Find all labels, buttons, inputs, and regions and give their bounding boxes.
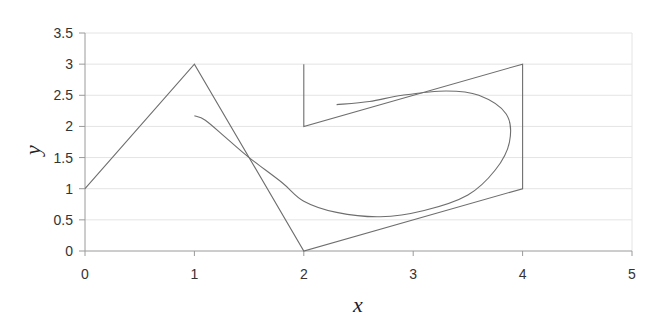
y-tick-label: 2.5 (54, 87, 74, 103)
x-tick-label: 0 (81, 266, 89, 282)
y-tick-label: 0.5 (54, 212, 74, 228)
x-tick-label: 2 (300, 266, 308, 282)
x-tick-label: 3 (409, 266, 417, 282)
x-axis-title: x (352, 292, 363, 317)
tick-labels: 00.511.522.533.5012345 (54, 25, 637, 282)
y-tick-label: 3 (65, 56, 73, 72)
curve-line (194, 91, 510, 217)
y-tick-label: 3.5 (54, 25, 74, 41)
x-tick-label: 5 (628, 266, 636, 282)
y-axis-title: y (20, 145, 45, 157)
x-tick-label: 1 (191, 266, 199, 282)
x-tick-label: 4 (519, 266, 527, 282)
axes (79, 33, 632, 256)
y-tick-label: 1.5 (54, 150, 74, 166)
y-tick-label: 0 (65, 243, 73, 259)
y-tick-label: 1 (65, 181, 73, 197)
gridlines (85, 33, 632, 220)
chart: 00.511.522.533.5012345 x y (0, 0, 666, 329)
y-tick-label: 2 (65, 118, 73, 134)
